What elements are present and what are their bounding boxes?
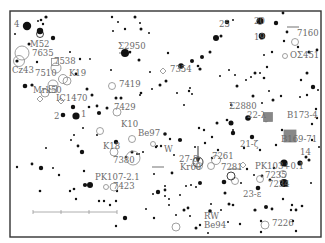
star-dot (232, 204, 235, 207)
star-dot (168, 204, 170, 206)
label-star-22-lambda: 22-λ (247, 110, 267, 120)
star-dot (189, 215, 191, 217)
label-star-14: 14 (300, 147, 311, 157)
label-star-19: 19 (254, 32, 265, 42)
star-dot (168, 198, 170, 200)
star-dot (185, 185, 187, 187)
label-ngc7354: 7354 (170, 64, 192, 74)
label-star-1: 1 (81, 109, 86, 119)
star-dot (73, 188, 76, 191)
star-dot (198, 67, 201, 70)
star-dot (253, 208, 256, 211)
star-dot (51, 36, 55, 40)
label-be97: Be97 (138, 128, 160, 138)
star-dot (77, 145, 80, 148)
star-dot (236, 85, 239, 88)
star-dot (283, 40, 285, 42)
star-dot (191, 93, 193, 95)
star-dot (286, 31, 289, 34)
label-star-23-epsilon: 23-ε (243, 189, 262, 199)
star-chart: 4M5276357538Cz437510K19Mrk50IC147021Σ295… (0, 0, 325, 243)
star-dot (45, 147, 47, 149)
star-dot (229, 121, 234, 126)
star-dot (88, 106, 91, 109)
star-dot (195, 186, 197, 188)
label-ngc7635: 7635 (32, 48, 54, 58)
star-dot (271, 208, 274, 211)
label-ngc7160: 7160 (297, 28, 319, 38)
star-dot (259, 72, 261, 74)
star-dot (96, 105, 99, 108)
star-dot (138, 59, 141, 62)
star-dot (272, 99, 275, 102)
star-dot (261, 102, 263, 104)
star-dot (209, 51, 212, 54)
star-dot (96, 134, 98, 136)
label-k10: K10 (121, 119, 138, 129)
star-dot (79, 58, 81, 60)
star-dot (271, 51, 273, 53)
star-dot (171, 172, 174, 175)
star-dot (240, 182, 242, 184)
star-dot (115, 97, 118, 100)
star-dot (266, 66, 268, 68)
star-dot (153, 173, 155, 175)
star-dot (91, 94, 94, 97)
star-dot (110, 69, 112, 71)
star-dot (139, 94, 141, 96)
label-b173-4: B173-4 (287, 110, 318, 120)
star-dot (254, 72, 257, 75)
label-star-21-zeta: 21-ζ (240, 139, 259, 149)
star-dot (39, 166, 43, 170)
star-dot (23, 22, 31, 30)
label-be94: Be94 (204, 220, 226, 230)
star-dot (169, 138, 171, 140)
star-dot (211, 136, 213, 138)
star-dot (31, 163, 34, 166)
star-dot (183, 209, 186, 212)
label-ngc7538: 7538 (54, 56, 76, 66)
star-dot (40, 19, 43, 22)
star-dot (61, 113, 66, 118)
star-dot (164, 185, 166, 187)
star-dot (246, 168, 248, 170)
label-ngc7510: 7510 (35, 68, 57, 78)
star-dot (295, 209, 298, 212)
star-dot (216, 122, 219, 125)
label-ngc7281: 7281 (221, 162, 243, 172)
label-star-2: 2 (54, 111, 59, 121)
star-dot (210, 203, 212, 205)
star-dot (220, 35, 223, 38)
star-dot (83, 183, 87, 187)
star-dot (224, 192, 227, 195)
star-dot (179, 194, 181, 196)
star-dot (153, 217, 155, 219)
label-star-25: 25 (219, 19, 230, 29)
star-dot (75, 198, 77, 200)
star-dot (280, 95, 282, 97)
star-dot (164, 195, 166, 197)
star-dot (145, 208, 147, 210)
label-ngc7234: 7234 (268, 179, 290, 189)
star-dot (176, 92, 178, 94)
star-dot (239, 223, 241, 225)
star-dot (232, 129, 234, 131)
label-sigma2950: Σ2950 (118, 41, 146, 51)
star-dot (188, 90, 190, 92)
star-dot (163, 132, 167, 136)
star-dot (70, 139, 72, 141)
star-dot (37, 20, 39, 22)
star-dot (139, 22, 141, 24)
star-dot (291, 204, 293, 206)
star-dot (228, 203, 231, 206)
star-dot (227, 221, 229, 223)
star-dot (167, 52, 169, 54)
star-dot (156, 145, 158, 147)
star-dot (308, 159, 311, 162)
star-dot (253, 174, 255, 176)
star-dot (98, 200, 100, 202)
star-dot (159, 84, 162, 87)
label-ngc7261: 7261 (212, 151, 234, 161)
star-dot (97, 111, 101, 115)
star-dot (281, 129, 283, 131)
